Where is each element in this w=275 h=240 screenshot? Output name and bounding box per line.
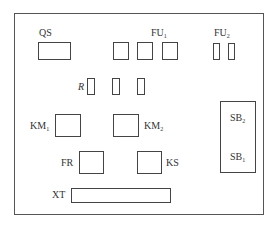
sb2-label: SB2 [230, 113, 245, 123]
xt-label: XT [52, 190, 65, 200]
fu1-fuse-box-a [113, 42, 129, 60]
fu1-label: FU1 [151, 28, 167, 38]
fu2-fuse-box-b [228, 43, 235, 60]
resistor-box-b [112, 78, 120, 95]
km2-contactor-box [113, 114, 139, 137]
ks-switch-box [137, 151, 162, 174]
qs-label: QS [39, 28, 52, 38]
resistor-box-a [87, 78, 95, 95]
qs-switch-box [38, 42, 71, 60]
fu1-fuse-box-c [162, 42, 178, 60]
fu2-fuse-box-a [213, 43, 220, 60]
km1-contactor-box [55, 114, 81, 137]
fr-relay-box [79, 151, 104, 174]
sb1-label: SB1 [230, 152, 245, 162]
fu1-fuse-box-b [137, 42, 153, 60]
ks-label: KS [166, 158, 179, 168]
xt-terminal-block [71, 188, 171, 203]
r-label: R [78, 82, 84, 92]
fr-label: FR [61, 158, 73, 168]
km1-label: KM1 [30, 121, 49, 131]
resistor-box-c [137, 78, 145, 95]
km2-label: KM2 [144, 121, 163, 131]
fu2-label: FU2 [214, 28, 230, 38]
